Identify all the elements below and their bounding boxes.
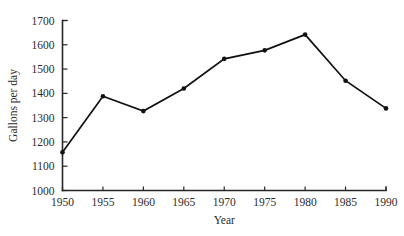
data-point-marker [141,109,146,114]
y-tick-label: 1200 [32,136,55,148]
data-point-marker [343,78,348,83]
data-point-marker [222,57,227,62]
x-tick-label: 1985 [334,196,357,208]
y-tick-label: 1600 [32,39,55,51]
data-point-marker [384,106,389,111]
y-tick-label: 1700 [32,15,55,27]
x-tick-label: 1960 [132,196,155,208]
x-tick-label: 1955 [91,196,114,208]
chart-canvas: 1000110012001300140015001600170019501955… [0,0,404,236]
data-point-marker [60,150,65,155]
x-axis-title: Year [214,214,235,226]
x-tick-label: 1950 [51,196,74,208]
data-point-marker [262,48,267,53]
line-chart: 1000110012001300140015001600170019501955… [0,0,404,236]
series-line-gallons-per-day [63,35,387,153]
y-tick-label: 1500 [32,63,55,75]
x-tick-label: 1980 [294,196,317,208]
x-tick-label: 1965 [172,196,195,208]
x-tick-label: 1990 [375,196,398,208]
y-tick-label: 1400 [32,87,55,99]
x-tick-label: 1975 [253,196,276,208]
data-point-marker [182,86,187,91]
y-tick-label: 1100 [32,160,55,172]
data-point-marker [303,32,308,37]
y-tick-label: 1300 [32,112,55,124]
x-tick-label: 1970 [213,196,236,208]
data-point-marker [101,94,106,99]
y-axis-title: Gallons per day [7,69,20,142]
